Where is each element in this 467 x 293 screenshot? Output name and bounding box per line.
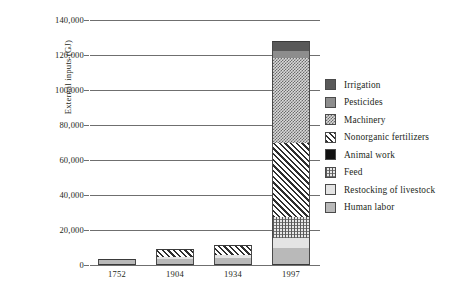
bar-1904[interactable] [156,249,194,265]
legend-swatch-animal-work-icon [325,149,336,160]
legend-item-restocking-of-livestock[interactable]: Restocking of livestock [325,181,465,199]
legend-swatch-restocking-of-livestock-icon [325,184,336,195]
bar-1997-segment-pesticides [272,51,310,58]
bar-1997[interactable] [272,41,310,265]
bar-1904-segment-human-labor [156,259,194,265]
x-tick-1904: 1904 [166,269,184,279]
bar-1997-segment-feed [272,217,310,238]
y-tick-mark-140000 [84,20,89,21]
legend-item-animal-work[interactable]: Animal work [325,146,465,164]
x-tick-1934: 1934 [224,269,242,279]
x-tick-1752: 1752 [108,269,126,279]
y-tick-mark-80000 [84,125,89,126]
legend-label-nonorganic-fertilizers: Nonorganic fertilizers [344,132,429,142]
bar-1997-segment-human-labor [272,248,310,265]
legend-swatch-irrigation-icon [325,79,336,90]
bar-1997-segment-restocking [272,238,310,249]
bar-1934-segment-nonorganic-fertilizers [214,245,252,255]
y-tick-mark-40000 [84,195,89,196]
y-tick-20000: 20,000 [59,225,84,235]
bar-1997-segment-nonorganic-fertilizers [272,143,310,217]
y-axis-tick-labels: 0 20,000 40,000 60,000 80,000 100,000 12… [0,20,84,265]
chart-container: External inputs (GJ) 0 20,000 40,000 60,… [0,0,467,293]
bar-1997-segment-irrigation [272,41,310,51]
bar-1934-segment-human-labor [214,258,252,265]
y-tick-140000: 140,000 [55,15,84,25]
axis-baseline [90,265,320,266]
bar-1752[interactable] [98,259,136,265]
y-tick-40000: 40,000 [59,190,84,200]
legend-label-irrigation: Irrigation [344,80,381,90]
legend-swatch-machinery-icon [325,114,336,125]
bar-1904-segment-nonorganic-fertilizers [156,249,194,257]
y-tick-80000: 80,000 [59,120,84,130]
legend-item-machinery[interactable]: Machinery [325,111,465,129]
bar-1997-segment-machinery [272,58,310,144]
legend-item-human-labor[interactable]: Human labor [325,199,465,217]
legend-item-pesticides[interactable]: Pesticides [325,94,465,112]
y-tick-mark-0 [84,265,89,266]
gridline-140000 [90,20,320,21]
chart-legend: Irrigation Pesticides Machinery Nonorgan… [325,76,465,216]
y-tick-mark-60000 [84,160,89,161]
y-tick-mark-20000 [84,230,89,231]
legend-item-nonorganic-fertilizers[interactable]: Nonorganic fertilizers [325,129,465,147]
legend-label-machinery: Machinery [344,115,386,125]
legend-item-irrigation[interactable]: Irrigation [325,76,465,94]
y-tick-mark-100000 [84,90,89,91]
legend-item-feed[interactable]: Feed [325,164,465,182]
legend-swatch-pesticides-icon [325,97,336,108]
y-tick-mark-120000 [84,55,89,56]
legend-label-pesticides: Pesticides [344,97,383,107]
y-tick-60000: 60,000 [59,155,84,165]
legend-swatch-feed-icon [325,167,336,178]
plot-area: 1752 1904 1934 1997 [90,20,320,265]
legend-swatch-human-labor-icon [325,202,336,213]
y-tick-120000: 120,000 [55,50,84,60]
bar-1934[interactable] [214,245,252,265]
legend-label-feed: Feed [344,167,363,177]
legend-label-animal-work: Animal work [344,150,395,160]
legend-label-human-labor: Human labor [344,202,394,212]
legend-swatch-nonorganic-fertilizers-icon [325,132,336,143]
y-tick-100000: 100,000 [55,85,84,95]
x-tick-1997: 1997 [282,269,300,279]
bar-1752-segment-human-labor [98,260,136,265]
legend-label-restocking-of-livestock: Restocking of livestock [344,185,435,195]
